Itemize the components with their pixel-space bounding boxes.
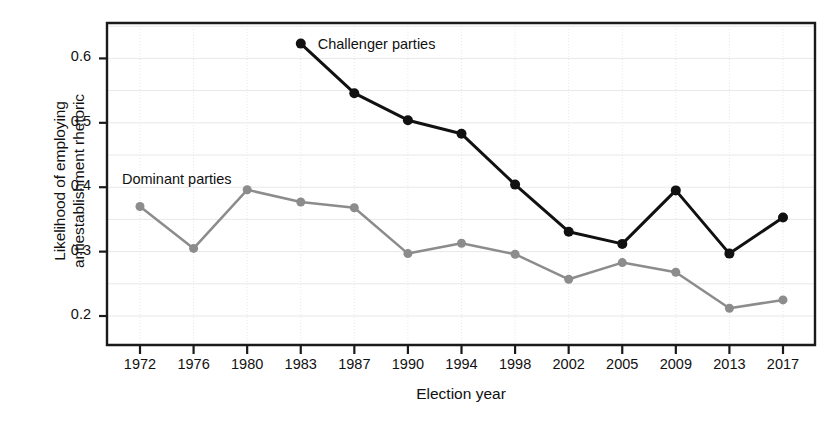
x-tick-label: 2009 — [651, 356, 701, 372]
x-tick-label: 2005 — [597, 356, 647, 372]
x-tick-label: 1972 — [115, 356, 165, 372]
x-tick-label: 1990 — [383, 356, 433, 372]
x-tick-label: 1980 — [222, 356, 272, 372]
y-tick-label: 0.4 — [45, 177, 91, 193]
data-series-layer — [136, 39, 789, 313]
x-tick-label: 1976 — [169, 356, 219, 372]
x-tick-label: 2002 — [544, 356, 594, 372]
x-axis-title: Election year — [107, 385, 815, 403]
x-tick-label: 1998 — [490, 356, 540, 372]
series-annotation-challenger: Challenger parties — [318, 36, 436, 52]
y-tick-label: 0.6 — [45, 48, 91, 64]
x-tick-label: 2017 — [758, 356, 808, 372]
x-tick-label: 1987 — [329, 356, 379, 372]
x-tick-label: 1994 — [437, 356, 487, 372]
axis-ticks — [99, 58, 783, 354]
y-tick-label: 0.3 — [45, 242, 91, 258]
x-tick-label: 1983 — [276, 356, 326, 372]
chart-figure: Likelihood of employing antiestablishmen… — [0, 0, 839, 424]
series-annotation-dominant: Dominant parties — [122, 171, 232, 187]
x-tick-label: 2013 — [704, 356, 754, 372]
y-tick-label: 0.2 — [45, 306, 91, 322]
y-tick-label: 0.5 — [45, 113, 91, 129]
